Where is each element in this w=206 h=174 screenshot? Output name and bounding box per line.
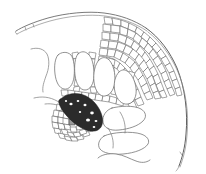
parenchyma-cell [111, 25, 120, 33]
bundle-speck [79, 111, 81, 113]
leaf-cross-section-figure [0, 0, 206, 174]
parenchyma-cell [104, 17, 113, 24]
bundle-speck [93, 126, 96, 128]
bundle-speck [84, 104, 87, 106]
air-chamber [94, 58, 115, 97]
bundle-speck [90, 112, 94, 115]
bundle-speck [86, 118, 90, 121]
parenchyma-cell [103, 24, 111, 32]
air-chamber [75, 52, 94, 90]
bundle-speck [69, 103, 72, 105]
bundle-speck [95, 120, 98, 122]
parenchyma-cell [99, 48, 108, 56]
parenchyma-cell [102, 32, 110, 40]
parenchyma-cell [100, 40, 109, 48]
sheath-cell [70, 127, 77, 132]
air-chamber [55, 52, 75, 89]
bundle-speck [77, 100, 80, 102]
leaf-section-drawing [0, 0, 206, 174]
parenchyma-cell [110, 33, 119, 41]
bundle-speck [65, 100, 67, 102]
